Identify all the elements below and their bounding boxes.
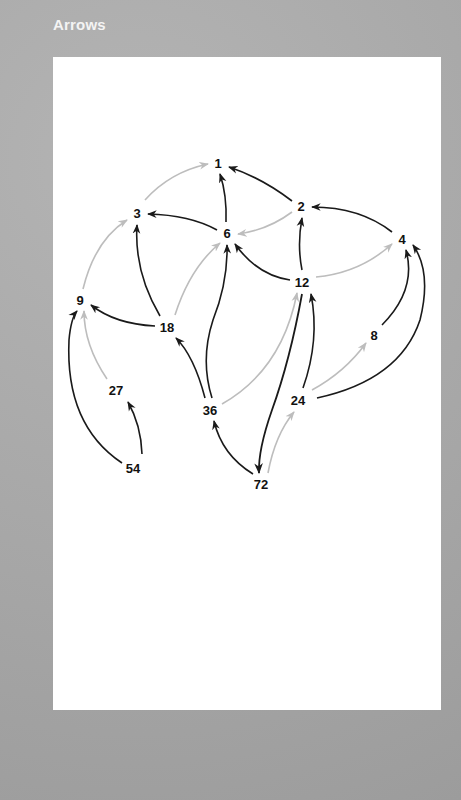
edge-72-24 (268, 412, 294, 473)
node-24: 24 (291, 393, 306, 408)
edge-72-36 (214, 421, 253, 474)
edge-4-2 (312, 207, 392, 232)
edge-3-1 (145, 164, 208, 200)
node-12: 12 (295, 275, 309, 290)
node-1: 1 (214, 156, 221, 171)
edge-12-72 (259, 294, 302, 473)
edge-9-3 (83, 220, 127, 289)
nodes: 1 2 3 4 6 9 12 18 8 27 24 36 54 72 (76, 156, 406, 492)
edge-2-6 (238, 212, 292, 234)
edge-18-9 (91, 305, 155, 326)
node-72: 72 (254, 477, 268, 492)
edge-24-8 (312, 343, 366, 390)
node-8: 8 (370, 328, 377, 343)
node-6: 6 (223, 226, 230, 241)
edge-36-12 (222, 293, 297, 404)
node-3: 3 (133, 206, 140, 221)
edge-27-9 (84, 311, 107, 379)
edge-6-1 (220, 174, 226, 222)
edge-36-6 (206, 245, 227, 398)
edge-36-18 (176, 338, 205, 398)
node-9: 9 (76, 293, 83, 308)
node-4: 4 (398, 232, 406, 247)
node-18: 18 (160, 320, 174, 335)
edge-18-6 (175, 243, 220, 315)
node-27: 27 (109, 383, 123, 398)
edges (69, 164, 425, 474)
edge-2-1 (229, 167, 292, 201)
edge-54-27 (128, 402, 142, 454)
node-36: 36 (203, 403, 217, 418)
edge-18-3 (137, 225, 160, 316)
node-2: 2 (297, 199, 304, 214)
edge-12-4 (316, 244, 392, 277)
edge-8-4 (382, 250, 409, 325)
node-54: 54 (126, 461, 141, 476)
edge-24-12 (303, 294, 314, 388)
edge-6-3 (148, 214, 217, 230)
edge-12-6 (235, 244, 290, 280)
edge-12-2 (300, 218, 303, 270)
arrow-diagram: 1 2 3 4 6 9 12 18 8 27 24 36 54 72 (0, 0, 461, 800)
